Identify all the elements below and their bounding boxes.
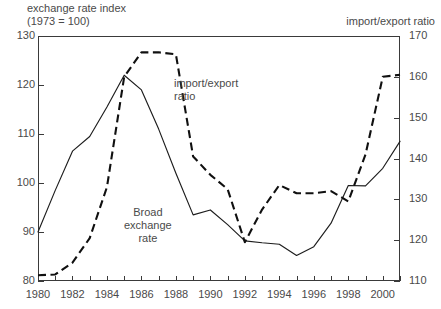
left-axis-tick-label: 120 bbox=[0, 78, 35, 90]
left-axis-title-line1: exchange rate index bbox=[27, 2, 126, 14]
left-axis-title: exchange rate index(1973 = 100) bbox=[27, 2, 126, 28]
chart-figure: exchange rate index(1973 = 100) import/e… bbox=[0, 0, 441, 309]
left-axis-tick-label: 130 bbox=[0, 29, 35, 41]
annotation-line: exchange bbox=[124, 219, 172, 231]
left-axis-tick-label: 90 bbox=[0, 225, 35, 237]
annotation-import-export-ratio: import/exportratio bbox=[174, 77, 238, 103]
annotation-broad-exchange-rate: Broadexchangerate bbox=[124, 206, 172, 245]
left-axis-tick-label: 110 bbox=[0, 127, 35, 139]
right-axis-tick-label: 120 bbox=[409, 233, 441, 245]
left-axis-tick-label: 80 bbox=[0, 274, 35, 286]
annotation-line: Broad bbox=[133, 206, 162, 218]
left-axis-tick-label: 100 bbox=[0, 176, 35, 188]
axis-frame bbox=[38, 37, 400, 282]
chart-svg bbox=[38, 36, 400, 281]
left-axis-title-line2: (1973 = 100) bbox=[27, 15, 90, 27]
right-axis-tick-label: 170 bbox=[409, 29, 441, 41]
annotation-line: ratio bbox=[174, 90, 195, 102]
annotation-line: rate bbox=[138, 232, 157, 244]
annotation-line: import/export bbox=[174, 77, 238, 89]
right-axis-tick-label: 160 bbox=[409, 70, 441, 82]
right-axis-tick-label: 130 bbox=[409, 192, 441, 204]
right-axis-tick-label: 150 bbox=[409, 111, 441, 123]
right-axis-tick-label: 140 bbox=[409, 152, 441, 164]
plot-area bbox=[38, 36, 400, 281]
x-axis-tick-label: 2000 bbox=[360, 288, 406, 300]
right-axis-title: import/export ratio bbox=[346, 15, 435, 28]
right-axis-tick-label: 110 bbox=[409, 274, 441, 286]
